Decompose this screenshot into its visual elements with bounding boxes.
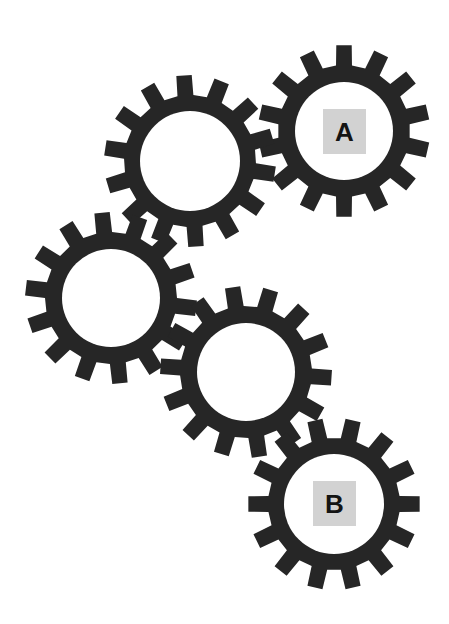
gear-a: A — [259, 45, 429, 216]
gear-a-label: A — [335, 117, 354, 147]
gear-2-hole — [140, 111, 240, 211]
gear-train-diagram: A B — [0, 0, 449, 624]
gear-3-hole — [62, 249, 160, 347]
gear-2 — [104, 75, 276, 247]
gear-b: B — [248, 419, 419, 589]
gear-b-label: B — [325, 489, 344, 519]
gear-3 — [25, 212, 197, 384]
gear-4-hole — [197, 323, 295, 421]
